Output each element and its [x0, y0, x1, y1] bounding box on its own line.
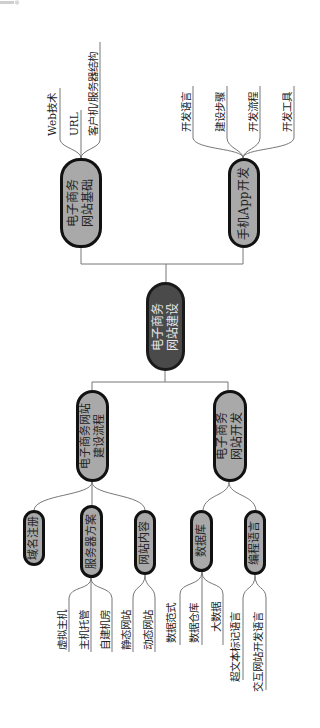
leaf-dynamic-site: 动态网站	[143, 610, 154, 650]
leaf-dev-process: 开发流程	[248, 92, 259, 132]
node-foundation-line2: 网站基础	[81, 179, 96, 227]
node-foundation-line1: 电子商务	[66, 179, 81, 227]
node-build-process[interactable]: 电子商务网站 建设流程	[76, 390, 109, 482]
node-root-line1: 电子商务	[151, 303, 166, 351]
node-programming-language-label: 编程语言	[248, 521, 262, 565]
node-website-dev-line2: 网站开发	[230, 412, 245, 460]
node-build-process-line2: 建设流程	[93, 403, 107, 469]
leaf-host-hosting: 主机托管	[79, 610, 90, 650]
leaf-big-data: 大数据	[211, 602, 222, 632]
node-database[interactable]: 数据库	[190, 510, 213, 572]
leaf-data-warehouse: 数据仓库	[189, 603, 200, 643]
node-domain-registration[interactable]: 域名注册	[23, 510, 45, 566]
leaf-build-steps: 建设步骤	[215, 92, 226, 132]
node-root-line2: 网站建设	[166, 303, 181, 351]
leaf-dev-tools: 开发工具	[282, 92, 293, 132]
node-app-dev[interactable]: 手机App开发	[228, 158, 260, 248]
node-website-dev[interactable]: 电子商务 网站开发	[213, 390, 247, 482]
leaf-interactive-lang: 交互网站开发语言	[253, 612, 264, 692]
leaf-data-normal-form: 数据范式	[166, 603, 177, 643]
leaf-dev-language: 开发语言	[181, 92, 192, 132]
node-app-dev-label: 手机App开发	[237, 167, 252, 239]
leaf-static-site: 静态网站	[121, 610, 132, 650]
node-root[interactable]: 电子商务 网站建设	[146, 282, 185, 371]
node-foundation[interactable]: 电子商务 网站基础	[60, 158, 102, 248]
leaf-web-tech: Web技术	[47, 93, 58, 136]
node-domain-registration-label: 域名注册	[27, 516, 41, 560]
node-programming-language[interactable]: 编程语言	[244, 510, 266, 575]
node-website-dev-line1: 电子商务	[215, 412, 230, 460]
leaf-self-built-room: 自建机房	[100, 610, 111, 650]
node-database-label: 数据库	[195, 525, 209, 558]
node-site-content[interactable]: 网站内容	[134, 510, 156, 575]
leaf-url: URL	[69, 112, 80, 136]
node-build-process-line1: 电子商务网站	[79, 403, 93, 469]
node-server-plan-label: 服务器方案	[85, 514, 99, 569]
leaf-html: 超文本标记语言	[230, 612, 241, 682]
leaf-client-server: 客户机/服务器结构	[88, 52, 99, 136]
node-site-content-label: 网站内容	[138, 521, 152, 565]
leaf-virtual-host: 虚拟主机	[57, 610, 68, 650]
node-server-plan[interactable]: 服务器方案	[80, 505, 103, 578]
